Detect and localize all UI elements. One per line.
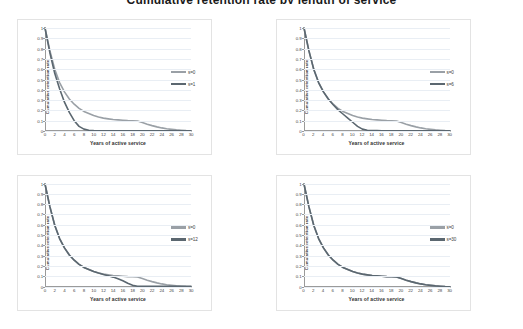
gridline [45, 245, 191, 246]
legend-label: s=6 [447, 82, 454, 87]
x-axis-tick-label: 2 [312, 288, 314, 293]
y-axis-tickmark [302, 69, 304, 70]
gridline [45, 235, 191, 236]
gridline [45, 69, 191, 70]
plot-area [304, 184, 450, 287]
legend-item[interactable]: s=12 [171, 234, 205, 246]
legend-label: s=0 [188, 70, 195, 75]
x-axis-tick-label: 26 [169, 288, 174, 293]
chart-frame: Cumulative retention rate 10.90.80.70.60… [276, 19, 471, 155]
x-axis-tick-label: 0 [44, 132, 46, 137]
gridline [304, 80, 450, 81]
y-axis-tickmark [43, 110, 45, 111]
chart-grid: Cumulative retention rate 10.90.80.70.60… [0, 14, 523, 329]
x-axis-tick-label: 26 [428, 132, 433, 137]
y-axis-tickmark [43, 266, 45, 267]
y-axis-tickmark [302, 80, 304, 81]
chart-panel-top-right: Cumulative retention rate 10.90.80.70.60… [262, 14, 523, 172]
y-axis-tickmark [43, 69, 45, 70]
chart-legend: s=0s=6 [430, 66, 464, 90]
gridline [45, 194, 191, 195]
x-axis-tick-label: 6 [73, 132, 75, 137]
x-axis-tick-label: 30 [447, 288, 452, 293]
x-axis-tick-label: 4 [63, 132, 65, 137]
x-axis-tick-label: 28 [437, 288, 442, 293]
page-title: Cumulative retention rate by length of s… [0, 0, 523, 4]
plot-area [45, 28, 191, 131]
gridline [45, 266, 191, 267]
y-axis-tickmark [302, 184, 304, 185]
x-axis-tick-label: 4 [322, 288, 324, 293]
gridline [45, 90, 191, 91]
x-axis-tick-label: 20 [398, 132, 403, 137]
y-axis-tickmark [302, 266, 304, 267]
chart-frame: Cumulative retention rate 10.90.80.70.60… [17, 19, 212, 155]
y-axis-tickmark [302, 256, 304, 257]
x-axis-tick-label: 24 [159, 288, 164, 293]
y-axis-tickmark [302, 38, 304, 39]
legend-swatch [430, 71, 445, 74]
x-axis-tick-label: 0 [302, 132, 304, 137]
legend-item[interactable]: s=0 [430, 222, 464, 234]
y-axis-tickmark [43, 38, 45, 39]
x-axis-tick-label: 0 [302, 288, 304, 293]
legend-item[interactable]: s=0 [171, 66, 205, 78]
legend-label: s=1 [188, 82, 195, 87]
gridline [45, 49, 191, 50]
y-axis-tickmark [43, 28, 45, 29]
plot-area [45, 184, 191, 287]
x-axis-tick-label: 14 [111, 132, 116, 137]
x-axis-tick-label: 4 [322, 132, 324, 137]
gridline [45, 121, 191, 122]
gridline [304, 38, 450, 39]
y-axis-tickmark [302, 100, 304, 101]
y-axis-tickmark [43, 204, 45, 205]
legend-swatch [430, 238, 445, 241]
y-axis-tickmark [43, 184, 45, 185]
x-axis-tick-label: 28 [179, 288, 184, 293]
y-axis-tickmark [43, 59, 45, 60]
gridline [45, 276, 191, 277]
legend-label: s=12 [188, 237, 198, 242]
gridline [45, 100, 191, 101]
legend-swatch [430, 83, 445, 86]
gridline [304, 49, 450, 50]
gridline [304, 235, 450, 236]
gridline [304, 256, 450, 257]
y-axis-tickmark [43, 100, 45, 101]
x-axis-tick-label: 20 [398, 288, 403, 293]
x-axis-tick-label: 22 [150, 288, 155, 293]
x-axis-tick-label: 8 [341, 288, 343, 293]
x-axis-tick-label: 22 [408, 132, 413, 137]
gridline [45, 184, 191, 185]
y-axis-tickmark [43, 235, 45, 236]
y-axis-tickmark [302, 204, 304, 205]
gridline [304, 214, 450, 215]
y-axis-tickmark [302, 49, 304, 50]
legend-item[interactable]: s=30 [430, 234, 464, 246]
gridline [45, 59, 191, 60]
gridline [304, 225, 450, 226]
y-axis-tickmark [43, 245, 45, 246]
chart-legend: s=0s=30 [430, 222, 464, 246]
x-axis-tick-label: 22 [150, 132, 155, 137]
y-axis-tickmark [43, 256, 45, 257]
y-axis-tickmark [302, 225, 304, 226]
gridline [304, 276, 450, 277]
gridline [45, 214, 191, 215]
y-axis-tickmark [302, 235, 304, 236]
legend-item[interactable]: s=6 [430, 78, 464, 90]
legend-swatch [171, 83, 186, 86]
legend-item[interactable]: s=1 [171, 78, 205, 90]
legend-label: s=30 [447, 237, 457, 242]
x-axis-tick-label: 20 [140, 132, 145, 137]
y-axis-tickmark [302, 276, 304, 277]
x-axis-tick-label: 26 [169, 132, 174, 137]
gridline [304, 110, 450, 111]
gridline [45, 225, 191, 226]
y-axis-tickmark [302, 194, 304, 195]
gridline [304, 245, 450, 246]
gridline [304, 28, 450, 29]
legend-item[interactable]: s=0 [171, 222, 205, 234]
legend-item[interactable]: s=0 [430, 66, 464, 78]
